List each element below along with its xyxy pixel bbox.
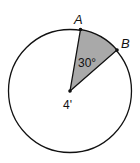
label-a: A	[73, 12, 83, 27]
radius-label: 4'	[63, 98, 72, 112]
point-a	[79, 28, 83, 32]
angle-label: 30°	[78, 56, 96, 70]
center-point	[68, 89, 72, 93]
circle-sector-diagram: A B 30° 4'	[0, 0, 140, 163]
label-b: B	[121, 36, 130, 51]
point-b	[115, 48, 119, 52]
